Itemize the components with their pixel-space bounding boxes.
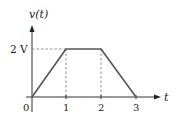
x-tick-3: 3 <box>133 102 139 113</box>
x-axis-arrow-icon <box>154 95 161 100</box>
y-axis <box>30 25 35 112</box>
x-tick-1: 1 <box>63 102 69 113</box>
x-tick-2: 2 <box>98 102 104 113</box>
x-tick-0: 0 <box>23 102 29 113</box>
x-axis-label: t <box>164 91 169 104</box>
x-axis <box>26 95 161 100</box>
voltage-trapezoid-chart: v(t) t 2 V 0 1 2 3 <box>0 0 177 119</box>
voltage-trace <box>32 49 136 97</box>
guide-lines <box>32 49 101 97</box>
y-axis-label: v(t) <box>29 8 48 21</box>
y-tick-2v: 2 V <box>10 43 28 55</box>
y-axis-arrow-icon <box>30 25 35 32</box>
